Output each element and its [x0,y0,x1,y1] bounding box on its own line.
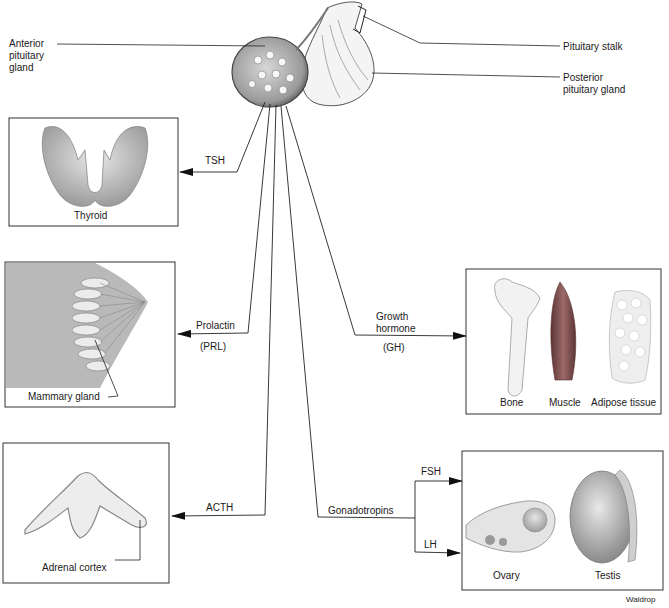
prolactin-label: Prolactin [196,320,235,332]
ovary-caption: Ovary [493,570,520,582]
label-line: Posterior [563,72,625,84]
breast-illustration [6,263,148,397]
fsh-label: FSH [421,466,441,478]
label-line: gland [9,62,44,74]
label-line: pituitary [9,50,44,62]
label-line: Anterior [9,38,44,50]
growth-hormone-label: Growth hormone [376,311,415,335]
posterior-pituitary-label: Posterior pituitary gland [563,72,625,96]
muscle-illustration [551,282,576,380]
muscle-caption: Muscle [549,397,581,409]
thyroid-caption: Thyroid [74,210,107,222]
pituitary-stalk-label: Pituitary stalk [563,41,622,53]
tsh-label: TSH [205,155,225,167]
adrenal-cortex-illustration [25,473,146,560]
mammary-gland-caption: Mammary gland [28,391,100,403]
acth-label: ACTH [206,502,233,514]
artist-credit: Waldrop [626,594,656,606]
testis-caption: Testis [595,570,621,582]
thyroid-illustration [42,127,147,207]
adipose-tissue-illustration [609,290,650,383]
ovary-illustration [466,501,555,552]
bone-illustration [495,279,540,396]
anterior-pituitary-label: Anterior pituitary gland [9,38,44,74]
gh-abbr-label: (GH) [383,342,405,354]
prl-abbr-label: (PRL) [200,341,226,353]
bone-caption: Bone [500,397,523,409]
lh-label: LH [424,539,437,551]
testis-illustration [570,470,637,563]
gonadotropins-label: Gonadotropins [328,505,394,517]
pituitary-gland-illustration [232,2,374,107]
label-line: Growth [376,311,415,323]
label-line: pituitary gland [563,84,625,96]
adrenal-cortex-caption: Adrenal cortex [42,562,106,574]
label-line: hormone [376,323,415,335]
adipose-tissue-caption: Adipose tissue [591,397,656,409]
